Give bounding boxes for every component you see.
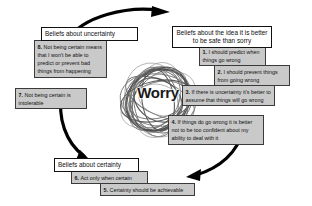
heading-label: Beliefs about the idea it is better to b… bbox=[177, 29, 268, 45]
heading-label: Beliefs about uncertainty bbox=[45, 30, 115, 37]
belief-item-5: 5. Certainty should be achievable bbox=[100, 183, 195, 196]
heading-beliefs-about-safe-than-sorry: Beliefs about the idea it is better to b… bbox=[172, 26, 272, 48]
belief-text-4: If things do go wrong it is better not t… bbox=[172, 119, 253, 141]
heading-beliefs-about-certainty: Beliefs about certainty bbox=[54, 158, 139, 172]
belief-text-1: I should predict when things go wrong bbox=[203, 49, 260, 63]
belief-text-6: Act only when certain bbox=[81, 175, 132, 181]
belief-item-8: 8. Not being certain means that I won't … bbox=[34, 40, 107, 78]
belief-item-4: 4. If things do go wrong it is better no… bbox=[168, 115, 264, 145]
center-label-worry: Worry bbox=[112, 84, 204, 101]
belief-text-8: Not being certain means that I won't be … bbox=[38, 44, 102, 75]
belief-text-5: Certainty should be achievable bbox=[110, 187, 184, 193]
belief-item-2: 2. I should prevent things from going wr… bbox=[214, 65, 290, 86]
belief-text-2: I should prevent things from going wrong bbox=[218, 69, 278, 83]
worry-belief-cycle-diagram: Worry Beliefs about uncertainty 8. Not b… bbox=[0, 0, 312, 206]
belief-text-7: Not being certain is intolerable bbox=[19, 92, 71, 106]
heading-label: Beliefs about certainty bbox=[58, 161, 121, 168]
heading-beliefs-about-uncertainty: Beliefs about uncertainty bbox=[41, 27, 138, 41]
belief-item-7: 7. Not being certain is intolerable bbox=[15, 88, 87, 109]
